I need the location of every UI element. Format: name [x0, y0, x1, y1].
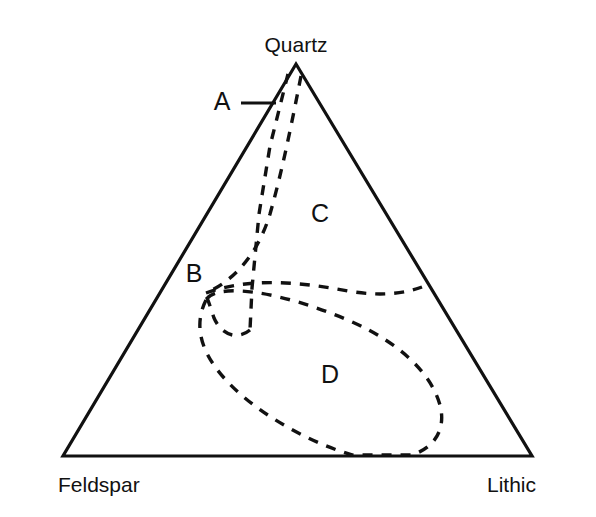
triangle-outline	[63, 64, 532, 456]
vertex-label-lithic: Lithic	[487, 473, 536, 496]
ternary-diagram-svg: Quartz Feldspar Lithic A B C D	[0, 0, 596, 517]
vertex-label-quartz: Quartz	[264, 33, 327, 56]
field-label-b: B	[186, 259, 203, 287]
field-label-c: C	[311, 199, 329, 227]
vertex-label-feldspar: Feldspar	[58, 473, 140, 496]
field-label-a: A	[214, 87, 231, 115]
ternary-diagram-figure: Quartz Feldspar Lithic A B C D	[0, 0, 596, 517]
field-label-d: D	[321, 360, 339, 388]
field-b-boundary	[204, 293, 250, 335]
field-c-lower-boundary	[206, 283, 422, 294]
